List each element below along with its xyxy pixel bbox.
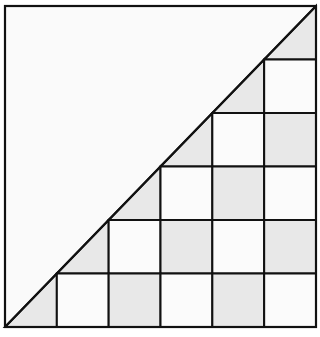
white-cell (161, 167, 213, 221)
white-cell (264, 167, 316, 221)
white-cell (109, 220, 161, 274)
shaded-cell (264, 113, 316, 167)
shaded-cell (212, 167, 264, 221)
white-cell (264, 274, 316, 328)
shaded-cell (109, 274, 161, 328)
white-cell (212, 113, 264, 167)
staircase-grid-diagram (0, 0, 320, 337)
white-cell (161, 274, 213, 328)
white-cell (57, 274, 109, 328)
white-cell (264, 60, 316, 114)
shaded-cell (212, 274, 264, 328)
shaded-cell (264, 220, 316, 274)
shaded-cell (161, 220, 213, 274)
white-cell (212, 220, 264, 274)
